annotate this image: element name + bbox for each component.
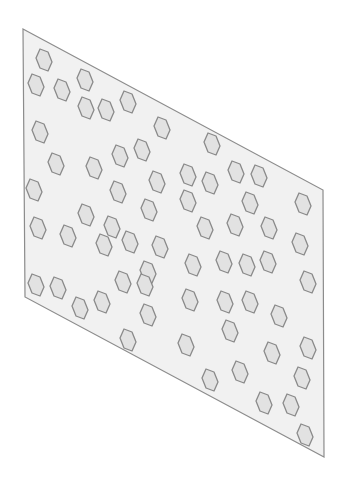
perforated-panel-diagram: [0, 0, 348, 488]
